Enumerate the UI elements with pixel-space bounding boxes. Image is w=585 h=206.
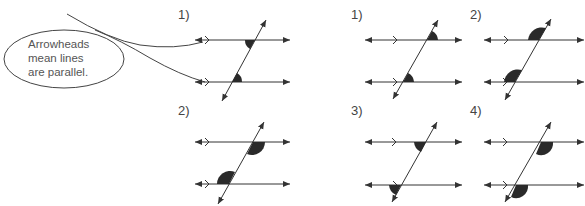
callout-line-3: are parallel. (28, 65, 108, 79)
left-figure-1-label: 1) (178, 7, 190, 22)
right-figure-4-label: 4) (470, 103, 482, 118)
right-figure-2 (484, 19, 584, 100)
right-figure-4 (484, 122, 584, 202)
callout-line-1: Arrowheads (28, 37, 108, 51)
right-figure-3 (365, 122, 462, 202)
right-figure-1-label: 1) (351, 7, 363, 22)
diagram-canvas (0, 0, 585, 206)
callout-line-2: mean lines (28, 51, 108, 65)
left-figure-1 (195, 20, 290, 101)
right-figure-2-label: 2) (470, 7, 482, 22)
left-figure-2 (195, 122, 290, 204)
right-figure-1 (365, 20, 462, 99)
left-figure-2-label: 2) (178, 103, 190, 118)
callout-text: Arrowheads mean lines are parallel. (28, 37, 108, 79)
right-figure-3-label: 3) (351, 103, 363, 118)
